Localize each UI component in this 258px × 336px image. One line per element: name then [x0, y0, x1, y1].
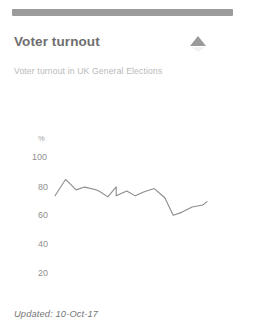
y-tick-40: 40 [38, 239, 48, 249]
y-tick-60: 60 [38, 210, 48, 220]
y-axis-unit-label: % [38, 134, 45, 143]
voter-turnout-card: Voter turnout Voter turnout in UK Genera… [0, 22, 258, 298]
updated-timestamp: Updated: 10-Oct-17 [14, 308, 98, 319]
turnout-series-line [55, 180, 207, 216]
turnout-line-chart: % 100 80 60 40 20 0 1945 2017 [0, 92, 258, 292]
voter-turnout-widget: Voter turnout Voter turnout in UK Genera… [0, 0, 258, 336]
page-title: Voter turnout [14, 34, 100, 49]
window-top-bar [12, 9, 233, 16]
y-tick-80: 80 [38, 182, 48, 192]
y-tick-20: 20 [38, 268, 48, 278]
y-tick-100: 100 [32, 152, 47, 162]
triangle-up-icon[interactable] [185, 32, 211, 56]
card-subtitle: Voter turnout in UK General Elections [14, 66, 244, 76]
card-header: Voter turnout [14, 34, 244, 60]
